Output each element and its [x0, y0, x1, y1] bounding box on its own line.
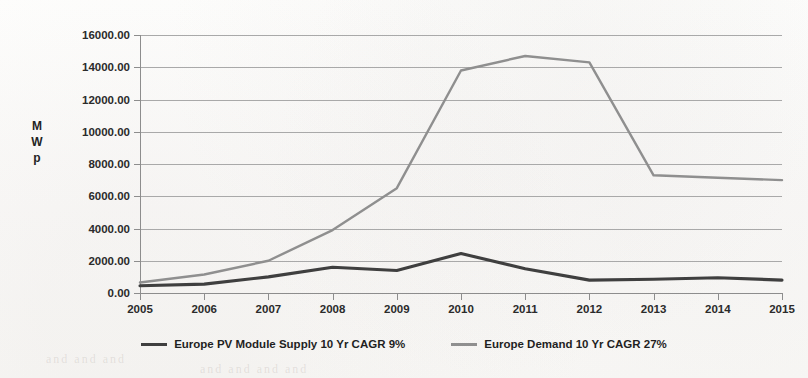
series-line — [140, 56, 782, 283]
x-axis-tick-label: 2010 — [448, 303, 474, 315]
x-axis-labels: 2005200620072008200920102011201220132014… — [0, 303, 808, 323]
y-axis-tick — [134, 164, 140, 165]
legend-item[interactable]: Europe Demand 10 Yr CAGR 27% — [451, 338, 667, 350]
y-axis-tick — [134, 100, 140, 101]
legend-item[interactable]: Europe PV Module Supply 10 Yr CAGR 9% — [141, 338, 405, 350]
x-axis-tick-label: 2015 — [769, 303, 795, 315]
legend-label: Europe PV Module Supply 10 Yr CAGR 9% — [174, 338, 405, 350]
y-axis-tick — [134, 196, 140, 197]
scanned-page: and and and and and and and M W p 0.0020… — [0, 0, 808, 378]
x-axis-tick-label: 2005 — [127, 303, 153, 315]
x-axis-tick-label: 2006 — [191, 303, 217, 315]
series-line — [140, 253, 782, 285]
y-axis-tick — [134, 132, 140, 133]
x-axis-tick — [333, 294, 334, 300]
x-axis-tick-label: 2013 — [641, 303, 667, 315]
x-axis-tick — [718, 294, 719, 300]
y-axis-tick — [134, 229, 140, 230]
x-axis-tick — [204, 294, 205, 300]
x-axis-tick-label: 2009 — [384, 303, 410, 315]
legend-line-swatch-icon — [141, 343, 167, 346]
x-axis-tick-label: 2012 — [577, 303, 603, 315]
x-axis-tick — [461, 294, 462, 300]
x-axis-tick — [589, 294, 590, 300]
x-axis-tick-label: 2007 — [256, 303, 282, 315]
x-axis-tick-label: 2011 — [513, 303, 538, 315]
legend-label: Europe Demand 10 Yr CAGR 27% — [484, 338, 667, 350]
x-axis-tick — [782, 294, 783, 300]
x-axis-tick — [525, 294, 526, 300]
x-axis-tick — [397, 294, 398, 300]
x-axis-tick — [654, 294, 655, 300]
chart-legend: Europe PV Module Supply 10 Yr CAGR 9%Eur… — [0, 332, 808, 356]
x-axis-tick-label: 2014 — [705, 303, 731, 315]
legend-line-swatch-icon — [451, 343, 477, 346]
x-axis-tick — [268, 294, 269, 300]
x-axis-tick — [140, 294, 141, 300]
y-axis-tick — [134, 67, 140, 68]
y-axis-tick — [134, 35, 140, 36]
x-axis-tick-label: 2008 — [320, 303, 346, 315]
y-axis-tick — [134, 261, 140, 262]
line-chart: M W p 0.002000.004000.006000.008000.0010… — [0, 0, 808, 378]
